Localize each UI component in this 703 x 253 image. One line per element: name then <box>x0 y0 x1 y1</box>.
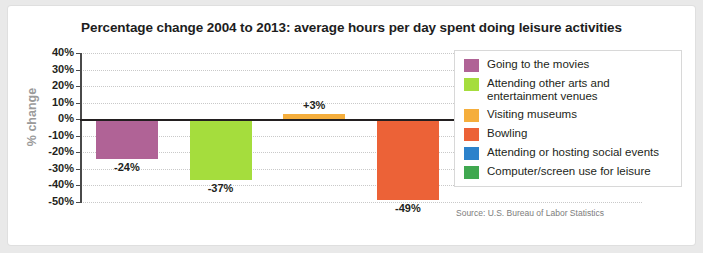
y-axis-tick-label: 30% <box>22 63 74 75</box>
y-axis-tick-mark <box>76 152 80 153</box>
bar <box>96 119 158 159</box>
legend-swatch-icon <box>464 109 479 122</box>
bar-value-label: +3% <box>266 99 362 111</box>
legend-item-label: Going to the movies <box>487 58 589 71</box>
bar-value-label: -24% <box>79 161 175 173</box>
y-axis-tick-mark <box>76 70 80 71</box>
y-axis-tick-mark <box>76 185 80 186</box>
y-axis-tick-label: -20% <box>22 145 74 157</box>
legend-item-label: Visiting museums <box>487 108 577 121</box>
y-axis-tick-label: 0% <box>22 112 74 124</box>
legend-item[interactable]: Attending or hosting social events <box>464 146 673 160</box>
legend-item-label: Bowling <box>487 127 527 140</box>
legend-swatch-icon <box>464 128 479 141</box>
y-axis-tick-label: 40% <box>22 46 74 58</box>
bar <box>190 119 252 180</box>
y-axis-tick-label: -40% <box>22 178 74 190</box>
legend-item-label: Attending other arts and entertainment v… <box>487 77 673 103</box>
legend-swatch-icon <box>464 166 479 179</box>
y-axis-tick-label: -10% <box>22 129 74 141</box>
legend-swatch-icon <box>464 147 479 160</box>
y-axis-tick-labels: 40%30%20%10%0%-10%-20%-30%-40%-50% <box>16 6 74 245</box>
legend-item[interactable]: Bowling <box>464 127 673 141</box>
legend-item[interactable]: Attending other arts and entertainment v… <box>464 77 673 103</box>
y-axis-tick-label: -50% <box>22 195 74 207</box>
legend-item[interactable]: Computer/screen use for leisure <box>464 165 673 179</box>
bar <box>377 119 439 200</box>
bar-value-label: -49% <box>360 202 456 214</box>
y-axis-tick-label: 20% <box>22 79 74 91</box>
source-note: Source: U.S. Bureau of Labor Statistics <box>456 208 604 218</box>
y-axis-tick-mark <box>76 202 80 203</box>
y-axis-tick-mark <box>76 136 80 137</box>
y-axis-tick-label: 10% <box>22 96 74 108</box>
legend-item-label: Attending or hosting social events <box>487 146 659 159</box>
chart-card: Percentage change 2004 to 2013: average … <box>8 6 695 245</box>
legend-item-label: Computer/screen use for leisure <box>487 165 651 178</box>
y-axis-tick-mark <box>76 86 80 87</box>
y-axis-tick-mark <box>76 53 80 54</box>
y-axis-line <box>80 53 82 203</box>
chart-legend: Going to the moviesAttending other arts … <box>454 50 682 187</box>
legend-item[interactable]: Visiting museums <box>464 108 673 122</box>
y-axis-tick-mark <box>76 103 80 104</box>
legend-swatch-icon <box>464 78 479 91</box>
legend-swatch-icon <box>464 59 479 72</box>
bar-value-label: -37% <box>173 182 269 194</box>
y-axis-tick-label: -30% <box>22 162 74 174</box>
plot-wrapper: % change 40%30%20%10%0%-10%-20%-30%-40%-… <box>8 6 695 245</box>
legend-item[interactable]: Going to the movies <box>464 58 673 72</box>
